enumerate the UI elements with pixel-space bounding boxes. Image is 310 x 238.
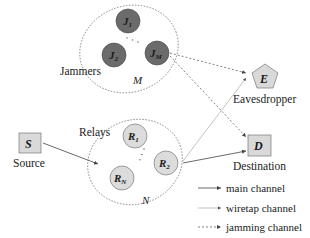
diagram-canvas: J1 J2 JM · · · Jammers M R1 R2 RN · · · … (0, 0, 310, 238)
destination-node: D (248, 135, 271, 156)
legend-main-label: main channel (226, 182, 285, 194)
jammer-node-1: J1 (116, 9, 140, 33)
legend-wiretap-label: wiretap channel (226, 202, 296, 214)
wiretap-channel (183, 78, 246, 161)
source-node: S (19, 133, 41, 153)
relay-node-2: R2 (154, 151, 178, 175)
relay-node-1: R1 (123, 124, 147, 148)
main-channel-source-to-relays (43, 143, 98, 164)
jammer-node-m: JM (145, 41, 169, 65)
relays-count: N (141, 194, 150, 206)
relay-node-n: RN (110, 166, 134, 190)
svg-text:D: D (253, 139, 263, 153)
source-label: Source (13, 157, 45, 169)
legend: main channel wiretap channel jamming cha… (198, 182, 302, 233)
jammers-count: M (132, 74, 143, 86)
legend-jamming-label: jamming channel (225, 221, 302, 233)
svg-text:S: S (25, 137, 32, 151)
relays-label: Relays (79, 126, 111, 139)
jammer-node-2: J2 (102, 43, 126, 67)
eavesdropper-node: E (252, 64, 278, 88)
jamming-channel-to-eavesdropper (170, 53, 246, 73)
eavesdropper-label: Eavesdropper (233, 93, 296, 106)
svg-text:E: E (259, 72, 268, 86)
jammers-label: Jammers (60, 65, 101, 77)
jammers-ellipsis: · · · (124, 32, 142, 47)
destination-label: Destination (233, 160, 286, 172)
